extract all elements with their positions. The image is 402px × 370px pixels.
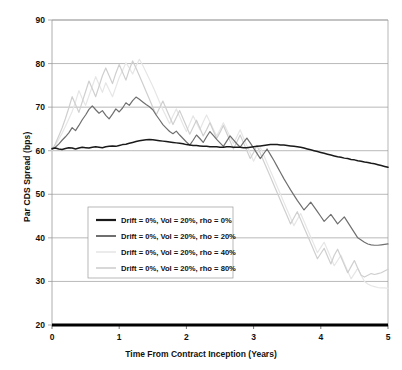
y-tick-label: 90 xyxy=(36,15,46,25)
y-tick-label: 60 xyxy=(36,146,46,156)
y-tick-label: 70 xyxy=(36,102,46,112)
y-tick-label: 50 xyxy=(36,189,46,199)
y-tick-label: 20 xyxy=(36,320,46,330)
chart-container: Par CDS Spread (bps) Time From Contract … xyxy=(0,0,402,370)
y-tick-label: 30 xyxy=(36,276,46,286)
x-tick-label: 3 xyxy=(251,332,256,342)
x-tick-label: 2 xyxy=(184,332,189,342)
legend-label: Drift = 0%, Vol = 20%, rho = 80% xyxy=(121,264,236,273)
x-tick-label: 0 xyxy=(50,332,55,342)
legend-label: Drift = 0%, Vol = 20%, rho = 0% xyxy=(121,216,232,225)
y-tick-label: 80 xyxy=(36,59,46,69)
x-tick-label: 5 xyxy=(386,332,391,342)
legend-label: Drift = 0%, Vol = 20%, rho = 40% xyxy=(121,248,236,257)
y-tick-label: 40 xyxy=(36,233,46,243)
x-tick-label: 1 xyxy=(117,332,122,342)
legend-label: Drift = 0%, Vol = 20%, rho = 20% xyxy=(121,232,236,241)
x-tick-label: 4 xyxy=(318,332,323,342)
line-chart-plot: 9080706050403020012345Drift = 0%, Vol = … xyxy=(0,0,402,370)
